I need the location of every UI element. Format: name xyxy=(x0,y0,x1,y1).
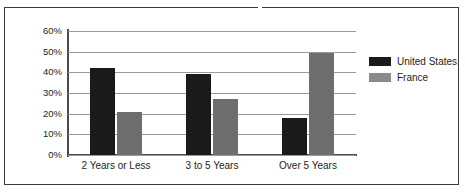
gridline xyxy=(68,31,356,32)
legend-swatch xyxy=(369,57,391,66)
y-axis-tick-label: 30% xyxy=(26,88,62,98)
bar xyxy=(90,68,115,155)
bar xyxy=(213,99,238,155)
bar xyxy=(117,112,142,155)
y-axis-tick-labels: 0%10%20%30%40%50%60% xyxy=(24,31,62,155)
legend-item: France xyxy=(369,70,457,84)
gridline xyxy=(68,155,356,156)
legend-item: United States xyxy=(369,54,457,68)
y-axis-tick-label: 40% xyxy=(26,67,62,77)
y-axis-tick-label: 0% xyxy=(26,150,62,160)
bar xyxy=(309,53,334,155)
legend-label: France xyxy=(397,72,428,83)
x-axis-category-label: 3 to 5 Years xyxy=(164,160,260,171)
plot-area xyxy=(68,31,356,155)
x-axis-category-label: 2 Years or Less xyxy=(68,160,164,171)
x-axis-category-label: Over 5 Years xyxy=(260,160,356,171)
chart-screenshot: 0%10%20%30%40%50%60% 2 Years or Less3 to… xyxy=(0,0,465,194)
frame-notch xyxy=(258,5,262,9)
y-axis-tick-label: 20% xyxy=(26,109,62,119)
legend-label: United States xyxy=(397,56,457,67)
bar xyxy=(282,118,307,155)
bar xyxy=(186,74,211,155)
y-axis-tick-label: 60% xyxy=(26,26,62,36)
legend-swatch xyxy=(369,73,391,82)
y-axis-tick-label: 50% xyxy=(26,47,62,57)
y-axis-tick-label: 10% xyxy=(26,129,62,139)
chart-legend: United StatesFrance xyxy=(369,54,457,86)
